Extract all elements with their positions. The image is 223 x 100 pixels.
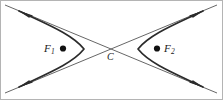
focus-label-right-base: F	[164, 42, 171, 54]
focus-label-right: F2	[164, 43, 174, 54]
focus-label-left: F1	[44, 43, 54, 54]
focus-label-left-subscript: 1	[51, 47, 55, 56]
focus-point-left	[60, 45, 66, 51]
focus-label-right-subscript: 2	[171, 47, 175, 56]
center-label: C	[107, 52, 114, 62]
focus-label-left-base: F	[44, 42, 51, 54]
focus-point-right	[154, 45, 160, 51]
hyperbola-figure: F1 F2 C	[0, 0, 223, 100]
figure-border	[1, 1, 223, 100]
figure-canvas	[0, 0, 223, 100]
